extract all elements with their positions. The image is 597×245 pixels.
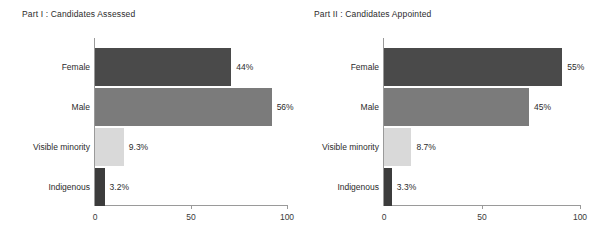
plot-area-part-i: 44%Female56%Male9.3%Visible minority3.2%… [95,38,287,206]
bar-row: 8.7%Visible minority [384,128,580,166]
x-axis-tick-label: 100 [573,212,587,222]
x-axis-tick [287,205,288,209]
bar-row: 3.2%Indigenous [95,168,287,206]
bar-row: 45%Male [384,88,580,126]
bar-value-label: 3.2% [110,182,129,192]
category-label: Female [351,62,379,72]
bar [384,168,392,206]
bar-row: 55%Female [384,48,580,86]
x-axis-tick-label: 0 [93,212,98,222]
category-label: Visible minority [322,142,379,152]
chart-panel-part-ii: Part II : Candidates Appointed 55%Female… [298,0,596,245]
x-axis-tick [191,205,192,209]
bar-row: 44%Female [95,48,287,86]
chart-title-part-ii: Part II : Candidates Appointed [314,9,431,19]
category-label: Indigenous [337,182,379,192]
bar [95,128,124,166]
x-axis-tick-label: 0 [382,212,387,222]
category-label: Male [361,102,379,112]
bar-value-label: 8.7% [416,142,435,152]
bar [95,48,231,86]
category-label: Indigenous [48,182,90,192]
x-axis-tick [482,205,483,209]
bar-value-label: 55% [567,62,584,72]
bar-value-label: 44% [236,62,253,72]
x-axis-tick [580,205,581,209]
category-label: Visible minority [33,142,90,152]
x-axis-tick-label: 50 [477,212,486,222]
bar [95,88,272,126]
category-label: Female [62,62,90,72]
x-axis-tick-label: 50 [186,212,195,222]
chart-title-part-i: Part I : Candidates Assessed [22,9,135,19]
bar [384,88,529,126]
bar-value-label: 3.3% [397,182,416,192]
chart-panel-part-i: Part I : Candidates Assessed 44%Female56… [0,0,298,245]
bar-row: 9.3%Visible minority [95,128,287,166]
bar [384,48,562,86]
plot-area-part-ii: 55%Female45%Male8.7%Visible minority3.3%… [384,38,580,206]
bar-value-label: 45% [534,102,551,112]
bar-row: 56%Male [95,88,287,126]
bar-value-label: 9.3% [129,142,148,152]
category-label: Male [72,102,90,112]
bar [95,168,105,206]
bar-row: 3.3%Indigenous [384,168,580,206]
bar-value-label: 56% [277,102,294,112]
chart-page: Part I : Candidates Assessed 44%Female56… [0,0,597,245]
x-axis-tick-label: 100 [280,212,294,222]
bar [384,128,411,166]
